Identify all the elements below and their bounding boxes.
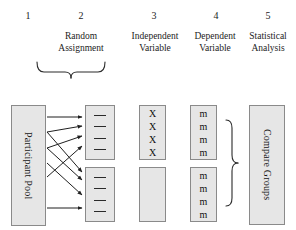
column-number-2: 2 (53, 10, 109, 21)
iv-treatment-items: X X X X (140, 106, 165, 159)
dv-treatment-items: m m m m (191, 106, 216, 159)
column-label-line-1: Statistical (240, 31, 296, 43)
assignment-arrow (47, 148, 82, 180)
dv-item: m (200, 134, 208, 145)
dv-box-treatment: m m m m (190, 105, 217, 160)
column-label-statistical-analysis: Statistical Analysis (240, 31, 296, 54)
group-member (94, 188, 106, 189)
column-label-line-2: Analysis (240, 43, 296, 55)
dv-control-items: m m m m (191, 168, 216, 221)
iv-item: X (149, 147, 156, 158)
compare-groups-label-wrap: Compare Groups (250, 106, 284, 224)
iv-item: X (149, 121, 156, 132)
assignment-arrow (47, 136, 82, 148)
group-member (94, 115, 106, 116)
analysis-brace-icon (226, 120, 238, 206)
column-label-line-2: Variable (184, 43, 246, 55)
dv-item: m (200, 170, 208, 181)
group-member (94, 126, 106, 127)
dv-item: m (200, 147, 208, 158)
participant-pool-label-wrap: Participant Pool (12, 106, 45, 225)
group-box-bottom (85, 167, 115, 222)
group-member (94, 138, 106, 139)
iv-control-items (140, 168, 165, 221)
column-label-line-2: Assignment (41, 43, 121, 55)
column-label-random-assignment: Random Assignment (41, 31, 121, 54)
assignment-arrow (47, 126, 82, 132)
column-label-line-1: Dependent (184, 31, 246, 43)
iv-item: X (149, 108, 156, 119)
column-number-3: 3 (126, 10, 182, 21)
dv-item: m (200, 209, 208, 220)
dv-item: m (200, 108, 208, 119)
group-member (94, 149, 106, 150)
group-bottom-members (86, 168, 114, 221)
column-number-4: 4 (188, 10, 244, 21)
group-member (94, 177, 106, 178)
iv-box-treatment: X X X X (139, 105, 166, 160)
group-member (94, 211, 106, 212)
group-member (94, 200, 106, 201)
participant-pool-label: Participant Pool (23, 132, 34, 199)
group-top-members (86, 106, 114, 159)
column-label-line-1: Independent (122, 31, 188, 43)
column-label-independent-variable: Independent Variable (122, 31, 188, 54)
assignment-arrow (47, 132, 82, 172)
group-box-top (85, 105, 115, 160)
dv-item: m (200, 196, 208, 207)
assignment-arrow (47, 146, 82, 177)
participant-pool-box: Participant Pool (11, 105, 46, 226)
compare-groups-label: Compare Groups (262, 129, 273, 200)
experimental-design-diagram: 1 2 3 4 5 Random Assignment Independent … (0, 0, 296, 230)
dv-item: m (200, 183, 208, 194)
random-assignment-arrows (47, 117, 82, 208)
column-label-line-1: Random (41, 31, 121, 43)
assignment-arrow (47, 163, 82, 195)
assignment-brace-icon (37, 62, 105, 78)
column-number-5: 5 (240, 10, 296, 21)
iv-box-control (139, 167, 166, 222)
column-label-line-2: Variable (122, 43, 188, 55)
dv-box-control: m m m m (190, 167, 217, 222)
dv-item: m (200, 121, 208, 132)
column-label-dependent-variable: Dependent Variable (184, 31, 246, 54)
iv-item: X (149, 134, 156, 145)
compare-groups-box: Compare Groups (249, 105, 285, 225)
column-number-1: 1 (10, 10, 46, 21)
